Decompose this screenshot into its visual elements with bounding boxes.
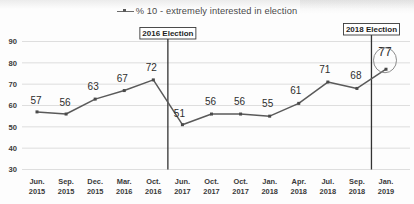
svg-text:2016: 2016 xyxy=(116,187,132,196)
chart-screenshot: % 10 - extremely interested in election … xyxy=(0,0,414,204)
svg-text:71: 71 xyxy=(319,64,331,75)
svg-text:Oct.: Oct. xyxy=(146,177,160,186)
svg-text:51: 51 xyxy=(174,108,186,119)
svg-text:Dec.: Dec. xyxy=(87,177,103,186)
svg-text:Jul.: Jul. xyxy=(321,177,334,186)
svg-text:2016 Election: 2016 Election xyxy=(142,29,193,38)
svg-text:Jun.: Jun. xyxy=(175,177,190,186)
svg-text:90: 90 xyxy=(9,37,17,46)
svg-text:56: 56 xyxy=(234,96,246,107)
svg-text:2017: 2017 xyxy=(203,187,219,196)
svg-text:Apr.: Apr. xyxy=(292,177,306,186)
svg-text:56: 56 xyxy=(60,97,72,108)
svg-text:80: 80 xyxy=(9,59,17,68)
svg-text:2018: 2018 xyxy=(291,187,307,196)
svg-text:2018: 2018 xyxy=(320,187,336,196)
svg-text:Sep.: Sep. xyxy=(58,177,74,186)
svg-text:Oct.: Oct. xyxy=(204,177,218,186)
svg-text:61: 61 xyxy=(290,85,302,96)
svg-text:68: 68 xyxy=(350,70,362,81)
svg-text:2018: 2018 xyxy=(349,187,365,196)
svg-text:Jun.: Jun. xyxy=(29,177,44,186)
svg-text:72: 72 xyxy=(146,62,158,73)
svg-text:40: 40 xyxy=(9,144,17,153)
svg-text:56: 56 xyxy=(205,96,217,107)
svg-text:2016: 2016 xyxy=(145,187,161,196)
svg-text:2015: 2015 xyxy=(29,187,45,196)
svg-text:2017: 2017 xyxy=(232,187,248,196)
svg-text:50: 50 xyxy=(9,123,17,132)
svg-text:Mar.: Mar. xyxy=(117,177,132,186)
svg-text:2015: 2015 xyxy=(58,187,74,196)
annotation-boxes: 2016 Election2018 Election xyxy=(140,24,400,40)
plot-area: 90807060504030 Jun.2015Sep.2015Dec.2015M… xyxy=(0,0,414,204)
svg-text:67: 67 xyxy=(117,73,129,84)
line-chart: 90807060504030 Jun.2015Sep.2015Dec.2015M… xyxy=(0,0,414,204)
svg-text:60: 60 xyxy=(9,101,17,110)
svg-text:2017: 2017 xyxy=(174,187,190,196)
svg-text:Oct.: Oct. xyxy=(233,177,247,186)
svg-text:2015: 2015 xyxy=(87,187,103,196)
svg-text:55: 55 xyxy=(262,98,274,109)
svg-text:2019: 2019 xyxy=(378,187,394,196)
x-axis-ticks: Jun.2015Sep.2015Dec.2015Mar.2016Oct.2016… xyxy=(29,177,394,196)
data-labels: 57566367725156565561716877 xyxy=(30,45,392,118)
svg-text:Sep.: Sep. xyxy=(349,177,365,186)
svg-text:2018 Election: 2018 Election xyxy=(346,25,397,34)
svg-text:70: 70 xyxy=(9,80,17,89)
svg-text:30: 30 xyxy=(9,165,17,174)
y-axis-ticks: 90807060504030 xyxy=(9,37,17,174)
svg-text:Jan.: Jan. xyxy=(262,177,277,186)
svg-text:2018: 2018 xyxy=(261,187,277,196)
svg-text:57: 57 xyxy=(30,95,42,106)
svg-text:63: 63 xyxy=(88,81,100,92)
svg-text:Jan.: Jan. xyxy=(379,177,394,186)
